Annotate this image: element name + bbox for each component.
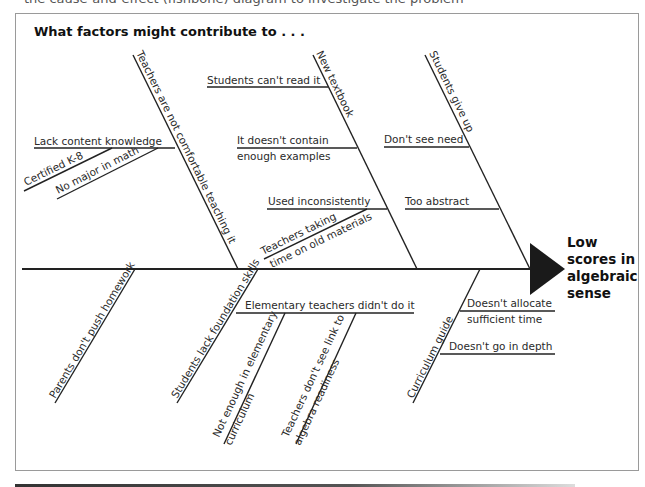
diagram-title: What factors might contribute to . . .: [34, 24, 305, 39]
fishbone-figure: the cause-and-effect (fishbone) diagram …: [0, 0, 645, 487]
cause-label: It doesn't contain: [237, 134, 329, 146]
cause-label: Elementary teachers didn't do it: [245, 299, 415, 311]
effect-line-3: algebraic: [567, 268, 638, 284]
fishbone-diagram: What factors might contribute to . . . L…: [0, 0, 645, 487]
effect-arrow-icon: [530, 243, 565, 295]
sub-cause-line: [264, 209, 367, 259]
bone-label: Curriculum guide: [404, 314, 455, 400]
cause-label: Doesn't go in depth: [449, 340, 552, 352]
effect-line-2: scores in: [567, 251, 635, 267]
cause-label: Students can't read it: [207, 74, 320, 86]
cause-label: Don't see need: [384, 133, 463, 145]
bone-students-give-up: Students give up Don't see need Too abst…: [384, 49, 530, 269]
bone-parents: Parents don't push homework: [46, 259, 137, 403]
cause-label-line2: enough examples: [237, 150, 331, 162]
bone-line: [425, 55, 530, 269]
cause-label: Lack content knowledge: [34, 135, 162, 147]
effect-line-4: sense: [567, 285, 611, 301]
cause-label-line2: sufficient time: [467, 313, 542, 325]
bone-students-lack-foundation: Students lack foundation skills Elementa…: [168, 256, 414, 446]
bone-label: Parents don't push homework: [46, 259, 137, 400]
bone-line: [55, 269, 135, 403]
cause-label: Too abstract: [404, 195, 469, 207]
bone-new-textbook: New textbook Students can't read it It d…: [207, 49, 417, 270]
bone-label: Students give up: [427, 49, 477, 135]
cause-label: Used inconsistently: [268, 195, 370, 207]
effect-line-1: Low: [567, 234, 597, 250]
bone-label: New textbook: [314, 49, 357, 120]
cause-label: Doesn't allocate: [467, 297, 552, 309]
